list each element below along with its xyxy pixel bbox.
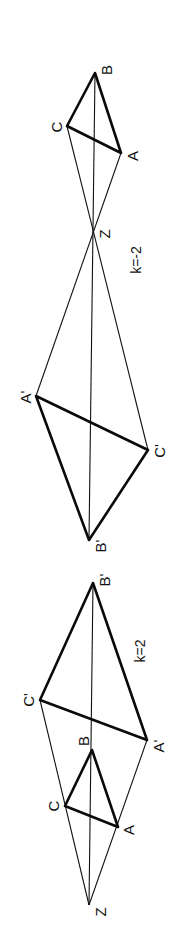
label-B: B — [75, 736, 92, 746]
label-Z: Z — [96, 229, 113, 238]
label-scale-factor: k=2 — [132, 639, 148, 662]
label-C: C — [45, 800, 62, 811]
triangle-ABC — [65, 750, 118, 827]
label-Aprime: A' — [150, 739, 167, 752]
ray-B-Bprime — [89, 73, 95, 540]
label-scale-factor: k=-2 — [128, 246, 144, 274]
figure-negative-scale: B C A Z k=-2 A' C' B' — [17, 65, 168, 552]
ray-C-Cprime — [67, 126, 148, 450]
ray-A-Aprime — [36, 153, 121, 396]
label-C: C — [48, 121, 65, 132]
label-Cprime: C' — [20, 693, 37, 707]
label-Cprime: C' — [151, 444, 168, 458]
label-Aprime: A' — [17, 390, 34, 403]
label-Bprime: B' — [96, 573, 113, 586]
label-B: B — [98, 65, 115, 75]
label-Z: Z — [92, 907, 109, 916]
figure-positive-scale: B' C' A' k=2 B C A Z — [20, 573, 167, 916]
triangle-AprimeBprimeCprime — [40, 583, 147, 740]
triangle-AprimeBprimeCprime — [36, 396, 148, 540]
enlargement-diagram: B C A Z k=-2 A' C' B' B' C' A' k=2 B C A… — [0, 0, 180, 928]
label-A: A — [120, 825, 137, 835]
label-Bprime: B' — [92, 539, 109, 552]
label-A: A — [124, 151, 141, 161]
